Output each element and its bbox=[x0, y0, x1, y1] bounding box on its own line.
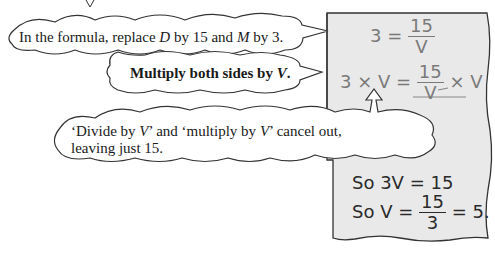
equation-line-3: So 3V = 15 bbox=[352, 172, 453, 193]
callout-1-text: In the formula, replace D by 15 and M by… bbox=[19, 29, 283, 46]
text-run: by 3. bbox=[249, 29, 283, 45]
callout-2-text: Multiply both sides by V. bbox=[130, 65, 290, 82]
text-run: by 15 and bbox=[170, 29, 237, 45]
equation-lhs: So V = bbox=[352, 201, 413, 222]
callout-3-line2: leaving just 15. bbox=[71, 140, 163, 157]
text-run: ’ and ‘multiply by bbox=[149, 123, 260, 139]
fraction: 15V bbox=[408, 16, 435, 57]
equation-line-1: 3 = 15V bbox=[370, 16, 435, 57]
equation-rhs: = 5. bbox=[452, 201, 490, 222]
variable-m: M bbox=[237, 29, 250, 45]
denominator: 3 bbox=[419, 213, 446, 233]
variable-d: D bbox=[159, 29, 170, 45]
numerator: 15 bbox=[408, 16, 435, 37]
equation-line-4: So V = 153 = 5. bbox=[352, 192, 490, 233]
variable-v: V bbox=[139, 123, 148, 139]
v-glyph-fragment bbox=[86, 0, 94, 7]
denominator: V bbox=[408, 37, 435, 57]
text-run: ‘Divide by bbox=[71, 123, 139, 139]
text-run: ’ cancel out, bbox=[269, 123, 342, 139]
variable-v: V bbox=[277, 65, 287, 81]
variable-v: V bbox=[260, 123, 269, 139]
equation-lhs: 3 × V = bbox=[340, 71, 411, 92]
numerator: 15 bbox=[417, 62, 444, 83]
equation-rhs: × V bbox=[449, 71, 482, 92]
fraction: 15V bbox=[417, 62, 444, 103]
denominator: V bbox=[417, 83, 444, 103]
text-run: Multiply both sides by bbox=[130, 65, 277, 81]
callout-3-line1: ‘Divide by V’ and ‘multiply by V’ cancel… bbox=[71, 123, 342, 140]
equation-lhs: 3 = bbox=[370, 25, 402, 46]
equation-line-2: 3 × V = 15V × V bbox=[340, 62, 483, 103]
numerator: 15 bbox=[419, 192, 446, 213]
text-run: In the formula, replace bbox=[19, 29, 159, 45]
fraction: 153 bbox=[419, 192, 446, 233]
text-run: . bbox=[287, 65, 291, 81]
